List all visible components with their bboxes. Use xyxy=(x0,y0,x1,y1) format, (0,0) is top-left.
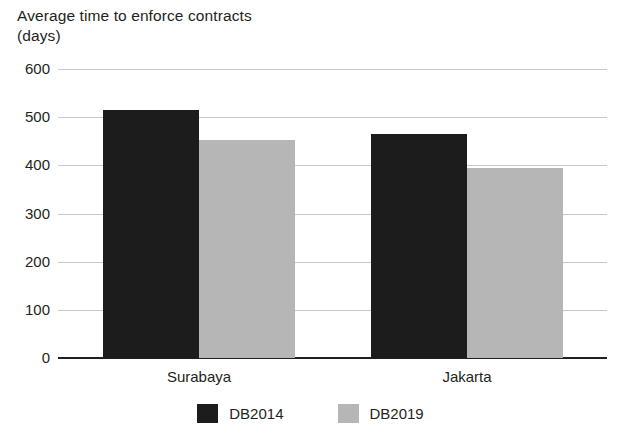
bar-jakarta-db2014 xyxy=(371,134,467,358)
y-axis-tick-label: 300 xyxy=(6,205,50,222)
legend-label: DB2019 xyxy=(370,405,424,422)
y-axis-tick-label: 200 xyxy=(6,253,50,270)
chart-legend: DB2014DB2019 xyxy=(0,404,621,423)
category-label-surabaya: Surabaya xyxy=(167,368,231,385)
legend-swatch-icon xyxy=(197,404,218,423)
bar-jakarta-db2019 xyxy=(467,168,563,358)
y-axis-tick-label: 600 xyxy=(6,60,50,77)
legend-label: DB2014 xyxy=(229,405,283,422)
legend-item-db2019[interactable]: DB2019 xyxy=(338,404,424,423)
y-axis-tick-label: 0 xyxy=(6,349,50,366)
gridline xyxy=(58,69,607,70)
legend-swatch-icon xyxy=(338,404,359,423)
y-axis-tick-label: 100 xyxy=(6,301,50,318)
bar-surabaya-db2019 xyxy=(199,140,295,358)
bar-surabaya-db2014 xyxy=(103,110,199,358)
plot-area: 6005004003002001000 xyxy=(58,69,607,358)
y-axis-tick-label: 500 xyxy=(6,108,50,125)
chart-page: Average time to enforce contracts (days)… xyxy=(0,0,621,447)
chart-title: Average time to enforce contracts (days) xyxy=(17,6,437,46)
legend-item-db2014[interactable]: DB2014 xyxy=(197,404,283,423)
category-label-jakarta: Jakarta xyxy=(442,368,491,385)
y-axis-tick-label: 400 xyxy=(6,156,50,173)
